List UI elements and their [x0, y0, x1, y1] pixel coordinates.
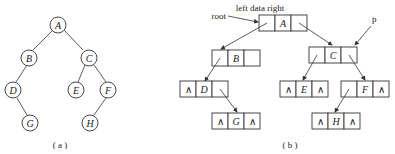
binary-tree-figure: A B C D E F G H ( a ) — [0, 0, 395, 154]
svg-text:∧: ∧ — [317, 116, 324, 127]
svg-text:∧: ∧ — [217, 116, 224, 127]
tree-node-g: G — [22, 115, 38, 131]
p-label: p — [372, 14, 377, 24]
svg-text:∧: ∧ — [185, 84, 192, 95]
svg-text:H: H — [85, 118, 94, 129]
svg-text:D: D — [199, 84, 208, 95]
svg-text:A: A — [54, 20, 62, 31]
caption-b: ( b ) — [283, 140, 298, 150]
svg-text:D: D — [8, 85, 17, 96]
root-label: root — [212, 11, 227, 21]
linked-diagram-b: left data right root p A B C — [180, 3, 389, 150]
linked-node-g: ∧ G ∧ — [212, 113, 260, 129]
caption-a: ( a ) — [53, 140, 68, 150]
tree-node-a: A — [50, 17, 66, 33]
linked-node-h: ∧ H ∧ — [312, 113, 360, 129]
svg-text:∧: ∧ — [378, 84, 385, 95]
svg-text:G: G — [26, 118, 33, 129]
svg-text:A: A — [279, 18, 287, 29]
svg-text:∧: ∧ — [285, 84, 292, 95]
svg-text:E: E — [300, 84, 307, 95]
linked-node-f: F ∧ — [341, 81, 389, 97]
tree-node-d: D — [5, 82, 21, 98]
linked-node-d: ∧ D — [180, 81, 228, 97]
svg-text:F: F — [104, 85, 112, 96]
svg-text:∧: ∧ — [349, 116, 356, 127]
tree-node-b: B — [21, 50, 37, 66]
svg-text:E: E — [72, 85, 79, 96]
svg-text:∧: ∧ — [317, 84, 324, 95]
linked-node-b: B — [212, 50, 260, 66]
tree-node-h: H — [82, 115, 98, 131]
tree-node-f: F — [100, 82, 116, 98]
svg-text:G: G — [232, 116, 239, 127]
linked-node-c: C — [309, 47, 357, 63]
svg-text:∧: ∧ — [249, 116, 256, 127]
svg-text:F: F — [361, 84, 369, 95]
svg-text:B: B — [26, 53, 32, 64]
svg-text:B: B — [233, 53, 239, 64]
svg-text:C: C — [330, 50, 337, 61]
svg-text:C: C — [86, 53, 93, 64]
tree-diagram-a: A B C D E F G H ( a ) — [5, 17, 116, 150]
field-header: left data right — [236, 3, 285, 13]
linked-node-e: ∧ E ∧ — [280, 81, 328, 97]
tree-node-e: E — [68, 82, 84, 98]
tree-node-c: C — [81, 50, 97, 66]
svg-text:H: H — [331, 116, 340, 127]
